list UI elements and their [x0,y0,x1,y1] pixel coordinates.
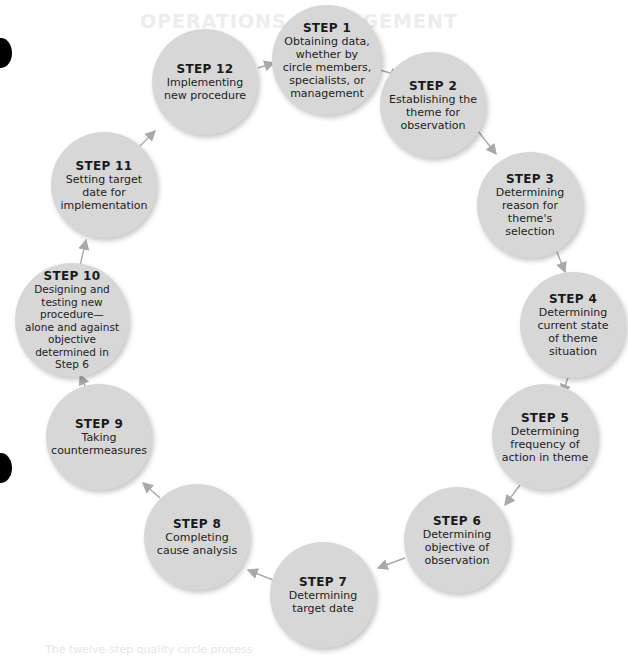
step-desc: Takingcountermeasures [51,431,147,457]
step-desc: Determiningcurrent stateof themesituatio… [537,306,608,358]
step-desc: Obtaining data,whether bycircle members,… [283,35,371,100]
step-desc: Determiningreason fortheme's selection [483,186,577,238]
step-desc: Implementingnew procedure [164,76,246,102]
step-desc: Completingcause analysis [157,531,237,557]
step-desc: Designing andtesting newprocedure—alone … [25,283,119,371]
step-5-node: STEP 5 Determiningfrequency ofaction in … [492,384,598,490]
step-12-node: STEP 12 Implementingnew procedure [152,29,258,135]
step-1-node: STEP 1 Obtaining data,whether bycircle m… [272,5,382,115]
step-desc: Determiningtarget date [289,589,357,615]
step-title: STEP 2 [409,79,457,93]
step-10-node: STEP 10 Designing andtesting newprocedur… [15,263,129,377]
step-desc: Setting targetdate forimplementation [60,173,147,212]
step-9-node: STEP 9 Takingcountermeasures [46,384,152,490]
step-desc: Establishing thetheme forobservation [389,93,477,132]
step-8-node: STEP 8 Completingcause analysis [144,484,250,590]
step-title: STEP 1 [303,21,351,35]
step-4-node: STEP 4 Determiningcurrent stateof themes… [520,272,626,378]
step-2-node: STEP 2 Establishing thetheme forobservat… [380,52,486,158]
step-title: STEP 6 [433,514,481,528]
step-title: STEP 5 [521,411,569,425]
step-title: STEP 10 [44,269,101,283]
step-desc: Determiningobjective ofobservation [423,528,491,567]
step-title: STEP 8 [173,517,221,531]
step-7-node: STEP 7 Determiningtarget date [270,542,376,648]
step-desc: Determiningfrequency ofaction in theme [502,425,588,464]
step-title: STEP 3 [506,172,554,186]
step-title: STEP 9 [75,417,123,431]
step-3-node: STEP 3 Determiningreason fortheme's sele… [477,152,583,258]
step-6-node: STEP 6 Determiningobjective ofobservatio… [404,487,510,593]
step-title: STEP 12 [177,62,234,76]
step-title: STEP 7 [299,575,347,589]
step-title: STEP 4 [549,292,597,306]
step-11-node: STEP 11 Setting targetdate forimplementa… [51,132,157,238]
step-title: STEP 11 [76,159,133,173]
